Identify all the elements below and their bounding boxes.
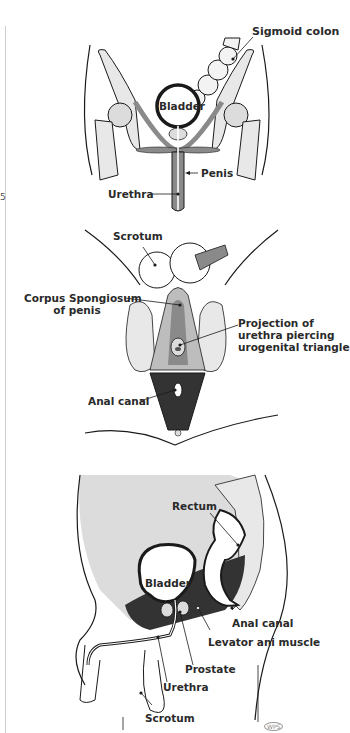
figure-anterior-view: Sigmoid colon Bladder Penis Urethra [0, 0, 347, 220]
label-rectum: Rectum [172, 500, 217, 512]
label-anal-canal: Anal canal [88, 395, 149, 407]
label-scrotum: Scrotum [113, 230, 163, 242]
label-scrotum: Scrotum [145, 712, 195, 724]
figure-sagittal-view: Rectum Bladder Anal canal Levator ani mu… [0, 460, 347, 733]
label-sigmoid-colon: Sigmoid colon [252, 26, 339, 38]
label-bladder: Bladder [159, 100, 205, 112]
label-levator-ani: Levator ani muscle [208, 636, 320, 648]
figure-perineal-view: Scrotum Corpus Spongiosum of penis Proje… [0, 225, 347, 450]
label-urethra: Urethra [108, 188, 154, 200]
label-anal-canal: Anal canal [232, 617, 293, 629]
label-prostate: Prostate [185, 663, 236, 675]
label-urethra: Urethra [163, 681, 209, 693]
label-corpus-spongiosum: Corpus Spongiosum of penis [24, 292, 142, 316]
label-urethra-projection: Projection of urethra piercing urogenita… [238, 317, 350, 353]
label-bladder: Bladder [145, 577, 191, 589]
label-penis: Penis [201, 167, 233, 179]
